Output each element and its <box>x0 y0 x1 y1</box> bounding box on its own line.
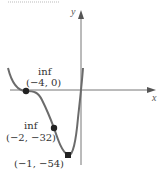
p3-coord: (−1, −54) <box>14 158 64 169</box>
p2-note: inf <box>24 120 39 131</box>
function-graph: x y inf (−4, 0) inf (−2, −32) (−1, −54) <box>0 0 163 172</box>
y-axis-arrow-icon <box>78 10 84 19</box>
p2-coord: (−2, −32) <box>6 132 56 143</box>
p1-note: inf <box>38 66 53 77</box>
x-axis-label: x <box>151 92 157 103</box>
point-minimum-neg1-neg54 <box>65 152 71 158</box>
y-axis-label: y <box>70 6 76 17</box>
point-inflection-neg2-neg32 <box>51 125 57 131</box>
p1-coord: (−4, 0) <box>26 77 61 88</box>
point-inflection-neg4-0 <box>23 88 29 94</box>
